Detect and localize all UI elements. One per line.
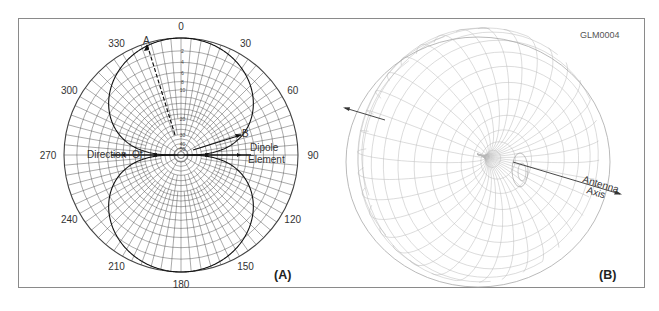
db-scale-label: 30 bbox=[180, 132, 186, 138]
panel-a-label: (A) bbox=[274, 268, 291, 282]
point-a-dashed-line bbox=[147, 44, 175, 135]
angle-label-180: 180 bbox=[173, 279, 190, 290]
point-b-line bbox=[193, 135, 241, 150]
angle-label-300: 300 bbox=[61, 85, 78, 96]
db-scale-label: 2 bbox=[181, 48, 184, 54]
pattern-outline bbox=[346, 37, 610, 287]
angle-label-120: 120 bbox=[284, 214, 301, 225]
antenna-axis-arrow bbox=[343, 107, 622, 194]
db-scale-label: 50 bbox=[180, 146, 186, 152]
direction-of-label: Direction Of bbox=[87, 149, 143, 160]
dipole-label: Dipole bbox=[250, 142, 279, 153]
angle-label-270: 270 bbox=[40, 150, 57, 161]
angle-label-30: 30 bbox=[240, 38, 252, 49]
db-scale-label: 4 bbox=[181, 59, 184, 65]
angle-label-60: 60 bbox=[287, 85, 299, 96]
angle-label-330: 330 bbox=[108, 38, 125, 49]
db-scale-label: 6 bbox=[181, 70, 184, 76]
angle-label-150: 150 bbox=[237, 261, 254, 272]
angle-label-240: 240 bbox=[61, 214, 78, 225]
db-scale-label: 10 bbox=[180, 87, 186, 93]
element-label: Element bbox=[248, 154, 285, 165]
point-b-label: B bbox=[242, 128, 249, 139]
db-scale-label: 8 bbox=[181, 79, 184, 85]
db-scale-label: 20 bbox=[180, 116, 186, 122]
panel-b-label: (B) bbox=[599, 268, 616, 282]
angle-label-0: 0 bbox=[178, 21, 184, 32]
angle-label-90: 90 bbox=[307, 150, 319, 161]
point-a-label: A bbox=[143, 35, 150, 46]
figure-code: GLM0004 bbox=[580, 30, 620, 40]
angle-label-210: 210 bbox=[108, 261, 125, 272]
figure-canvas: 2468102030405003060901201501802102402703… bbox=[0, 0, 659, 311]
dipole-3d-pattern-b bbox=[346, 28, 610, 288]
